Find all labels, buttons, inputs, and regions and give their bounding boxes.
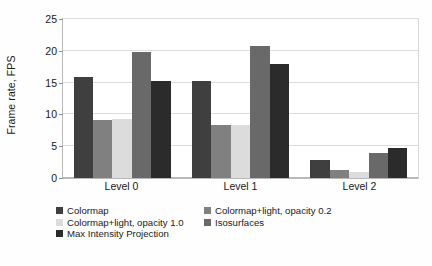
legend-row: ColormapColormap+light, opacity 0.2 (56, 205, 426, 217)
bar (349, 172, 368, 178)
y-axis-tick-label: 15 (45, 77, 57, 89)
y-axis-tick-mark (59, 178, 63, 179)
bar (112, 119, 131, 178)
bar (192, 81, 211, 178)
y-axis-tick-label: 0 (51, 172, 57, 184)
bar (132, 52, 151, 178)
legend-item[interactable]: Colormap+light, opacity 0.2 (204, 205, 332, 216)
legend-item-label: Colormap (67, 205, 109, 216)
legend-item-label: Isosurfaces (215, 217, 264, 228)
chart-figure: Frame rate, FPS 0510152025 Level 0Level … (0, 0, 432, 266)
legend-swatch-icon (204, 219, 211, 226)
bar (369, 153, 388, 178)
x-axis-tick-label: Level 1 (181, 180, 300, 192)
bar (270, 64, 289, 178)
bar (93, 120, 112, 178)
legend-item[interactable]: Max Intensity Projection (56, 228, 204, 239)
bar-groups (63, 19, 418, 178)
bar-group-inner (310, 19, 407, 178)
y-axis-tick-label: 5 (51, 140, 57, 152)
legend: ColormapColormap+light, opacity 0.2Color… (56, 205, 426, 240)
x-axis-tick-label: Level 0 (62, 180, 181, 192)
legend-swatch-icon (56, 207, 63, 214)
x-axis-tick-labels: Level 0Level 1Level 2 (62, 180, 419, 192)
bar-group (181, 19, 299, 178)
bar (388, 148, 407, 178)
bar (211, 125, 230, 178)
legend-item[interactable]: Colormap (56, 205, 204, 216)
bar (74, 77, 93, 178)
x-axis-tick-label: Level 2 (300, 180, 419, 192)
legend-item-label: Colormap+light, opacity 0.2 (215, 205, 332, 216)
legend-swatch-icon (56, 230, 63, 237)
bar (151, 81, 170, 178)
y-axis-tick-label: 20 (45, 45, 57, 57)
bar-group (63, 19, 181, 178)
legend-swatch-icon (204, 207, 211, 214)
y-axis-tick-label: 10 (45, 108, 57, 120)
legend-row: Max Intensity Projection (56, 228, 426, 240)
bar-group-inner (74, 19, 171, 178)
legend-item-label: Max Intensity Projection (67, 228, 169, 239)
legend-item[interactable]: Colormap+light, opacity 1.0 (56, 217, 204, 228)
bar (310, 160, 329, 178)
bar-group-inner (192, 19, 289, 178)
bar (231, 125, 250, 178)
bar (330, 170, 349, 178)
legend-row: Colormap+light, opacity 1.0Isosurfaces (56, 217, 426, 229)
y-axis-title: Frame rate, FPS (0, 0, 22, 190)
bar (250, 46, 269, 178)
plot-area: 0510152025 (62, 18, 419, 179)
legend-swatch-icon (56, 219, 63, 226)
legend-item[interactable]: Isosurfaces (204, 217, 264, 228)
legend-item-label: Colormap+light, opacity 1.0 (67, 217, 184, 228)
y-axis-tick-label: 25 (45, 13, 57, 25)
bar-group (300, 19, 418, 178)
y-axis-title-label: Frame rate, FPS (5, 55, 17, 134)
